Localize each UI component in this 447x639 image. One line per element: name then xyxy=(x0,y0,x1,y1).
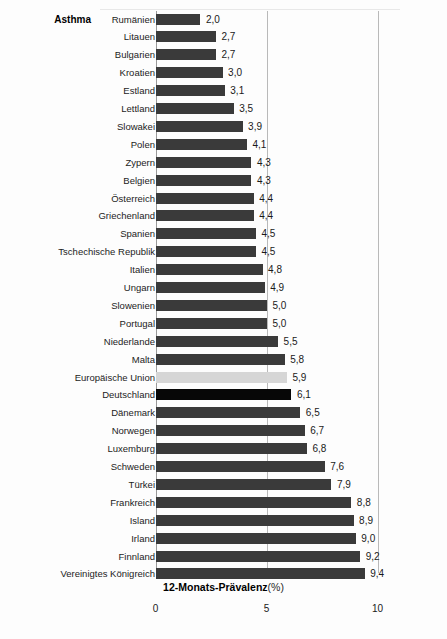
chart-row: Norwegen6,7 xyxy=(0,423,447,441)
x-tick-0: 0 xyxy=(153,603,159,614)
chart-row: Griechenland4,4 xyxy=(0,208,447,226)
chart-row: Österreich4,4 xyxy=(0,191,447,209)
bar-deutschland xyxy=(156,389,291,400)
bar-value-label: 9,4 xyxy=(370,566,384,580)
chart-page: AsthmaRumänien2,0Litauen2,7Bulgarien2,7K… xyxy=(0,0,447,639)
bar-vereinigtes-k-nigreich xyxy=(156,568,365,579)
bar-value-label: 4,4 xyxy=(259,208,273,222)
chart-row: Bulgarien2,7 xyxy=(0,47,447,65)
bar-norwegen xyxy=(156,425,305,436)
bar-value-label: 2,7 xyxy=(221,47,235,61)
bar-belgien xyxy=(156,175,251,186)
bar-value-label: 4,8 xyxy=(268,262,282,276)
bar-finnland xyxy=(156,551,360,562)
chart-row: Türkei7,9 xyxy=(0,477,447,495)
category-label: Finnland xyxy=(0,549,155,563)
chart-row: Island8,9 xyxy=(0,513,447,531)
bar-portugal xyxy=(156,318,267,329)
bar-value-label: 8,8 xyxy=(357,495,371,509)
category-label: Litauen xyxy=(0,29,155,43)
bar-slowenien xyxy=(156,300,267,311)
bar-value-label: 5,8 xyxy=(290,352,304,366)
chart-row: Zypern4,3 xyxy=(0,155,447,173)
bar-italien xyxy=(156,264,263,275)
chart-row: Schweden7,6 xyxy=(0,459,447,477)
bar-zypern xyxy=(156,157,251,168)
bar-value-label: 5,5 xyxy=(284,334,298,348)
x-axis-title-main: 12-Monats-Prävalenz xyxy=(163,581,267,593)
bar-value-label: 4,9 xyxy=(270,280,284,294)
category-label: Zypern xyxy=(0,155,155,169)
bar-value-label: 4,4 xyxy=(259,191,273,205)
bar-schweden xyxy=(156,461,325,472)
chart-row: Spanien4,5 xyxy=(0,226,447,244)
bar-niederlande xyxy=(156,336,278,347)
category-label: Ungarn xyxy=(0,280,155,294)
category-label: Slowenien xyxy=(0,298,155,312)
x-tick-5: 5 xyxy=(264,603,270,614)
chart-row: Irland9,0 xyxy=(0,531,447,549)
bar-lettland xyxy=(156,103,234,114)
category-label: Italien xyxy=(0,262,155,276)
chart-row: AsthmaRumänien2,0 xyxy=(0,12,447,30)
bar-value-label: 2,7 xyxy=(221,29,235,43)
bar-value-label: 9,2 xyxy=(366,549,380,563)
chart-row: Tschechische Republik4,5 xyxy=(0,244,447,262)
category-label: Slowakei xyxy=(0,119,155,133)
category-label: Portugal xyxy=(0,316,155,330)
plot-area: AsthmaRumänien2,0Litauen2,7Bulgarien2,7K… xyxy=(0,0,447,585)
bar-value-label: 6,1 xyxy=(297,387,311,401)
chart-row: Finnland9,2 xyxy=(0,549,447,567)
bar-frankreich xyxy=(156,497,351,508)
chart-row: Ungarn4,9 xyxy=(0,280,447,298)
category-label: Frankreich xyxy=(0,495,155,509)
x-axis-title: 12-Monats-Prävalenz(%) xyxy=(0,581,447,593)
category-label: Lettland xyxy=(0,101,155,115)
category-label: Türkei xyxy=(0,477,155,491)
chart-row: Estland3,1 xyxy=(0,83,447,101)
chart-row: Malta5,8 xyxy=(0,352,447,370)
category-label: Vereinigtes Königreich xyxy=(0,566,155,580)
bar-value-label: 3,9 xyxy=(248,119,262,133)
chart-row: Europäische Union5,9 xyxy=(0,370,447,388)
bar-value-label: 7,6 xyxy=(330,459,344,473)
chart-row: Deutschland6,1 xyxy=(0,387,447,405)
category-label: Estland xyxy=(0,83,155,97)
bar-europ-ische-union xyxy=(156,372,287,383)
category-label: Griechenland xyxy=(0,208,155,222)
bar-island xyxy=(156,515,354,526)
bar-value-label: 7,9 xyxy=(337,477,351,491)
bar-value-label: 6,7 xyxy=(310,423,324,437)
bar-t-rkei xyxy=(156,479,331,490)
chart-row: Frankreich8,8 xyxy=(0,495,447,513)
bar-value-label: 5,9 xyxy=(292,370,306,384)
category-label: Irland xyxy=(0,531,155,545)
bar-value-label: 3,5 xyxy=(239,101,253,115)
category-label: Rumänien xyxy=(0,12,155,26)
category-label: Bulgarien xyxy=(0,47,155,61)
bar-value-label: 4,5 xyxy=(261,226,275,240)
chart-row: Polen4,1 xyxy=(0,137,447,155)
bar-value-label: 4,1 xyxy=(253,137,267,151)
bar-value-label: 8,9 xyxy=(359,513,373,527)
category-label: Tschechische Republik xyxy=(0,244,155,258)
bar-value-label: 3,0 xyxy=(228,65,242,79)
category-label: Polen xyxy=(0,137,155,151)
category-label: Dänemark xyxy=(0,405,155,419)
bar-value-label: 2,0 xyxy=(206,12,220,26)
category-label: Norwegen xyxy=(0,423,155,437)
category-label: Malta xyxy=(0,352,155,366)
bar-polen xyxy=(156,139,247,150)
bar-value-label: 6,8 xyxy=(312,441,326,455)
bar-tschechische-republik xyxy=(156,246,256,257)
category-label: Europäische Union xyxy=(0,370,155,384)
x-axis-title-unit: (%) xyxy=(268,581,284,593)
bar-value-label: 4,5 xyxy=(261,244,275,258)
chart-row: Slowakei3,9 xyxy=(0,119,447,137)
bar-value-label: 9,0 xyxy=(361,531,375,545)
chart-row: Italien4,8 xyxy=(0,262,447,280)
category-label: Island xyxy=(0,513,155,527)
bar-value-label: 5,0 xyxy=(273,298,287,312)
bar-d-nemark xyxy=(156,407,300,418)
chart-row: Kroatien3,0 xyxy=(0,65,447,83)
